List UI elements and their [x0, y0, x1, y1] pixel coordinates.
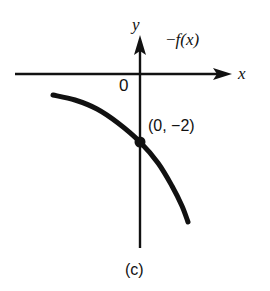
coordinate-plot — [0, 0, 270, 291]
x-axis-label: x — [238, 65, 246, 82]
function-label-minus: − — [166, 30, 176, 49]
function-curve — [53, 95, 188, 222]
y-axis-label: y — [132, 16, 140, 33]
point-coordinate-label: (0, −2) — [148, 118, 195, 134]
figure-caption: (c) — [125, 262, 144, 278]
origin-label: 0 — [119, 77, 128, 94]
marked-point-dot — [135, 137, 146, 148]
figure-container: y x 0 −f(x) (0, −2) (c) — [0, 0, 270, 291]
function-label-arg: (x) — [180, 30, 199, 49]
function-label: −f(x) — [166, 31, 199, 48]
